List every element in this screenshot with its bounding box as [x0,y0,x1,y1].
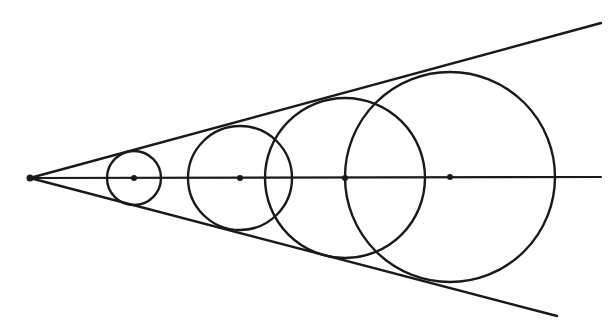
circle-center-point-4 [447,174,453,180]
upper-side-line [30,23,601,178]
angle-lines [30,23,601,316]
inscribed-circles-figure [0,0,614,330]
circle-center-point-2 [237,175,243,181]
lower-side-line [30,178,557,316]
diagram-canvas [0,0,614,330]
circle-center-point-1 [131,175,137,181]
vertex-point [27,175,34,182]
bisector-axis-line [30,177,601,178]
